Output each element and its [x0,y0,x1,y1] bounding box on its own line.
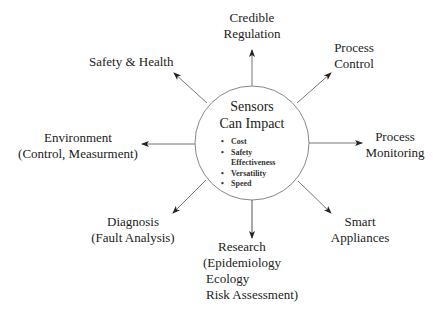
hub-bullet-versatility: •Versatility [221,169,275,180]
hub-title: Sensors Can Impact [192,98,312,132]
node-process-control: Process Control [326,40,382,72]
hub-bullet-speed: •Speed [221,179,275,190]
node-credible-regulation: Credible Regulation [217,10,287,42]
bullet-icon: • [221,179,224,190]
bullet-icon: • [221,137,224,148]
node-environment: Environment (Control, Measurment) [13,130,143,162]
node-smart-appliances: Smart Appliances [327,214,393,246]
hub-bullet-cost: •Cost [221,137,275,148]
hub-bullet-safety: •Safety [221,148,275,159]
bullet-icon: • [221,169,224,180]
node-research: Research (Epidemiology Ecology Risk Asse… [203,239,298,303]
arrow-smart-appliances [298,181,331,213]
hub-title-line2: Can Impact [192,115,312,132]
node-diagnosis: Diagnosis (Fault Analysis) [88,214,178,246]
arrow-diagnosis [173,180,206,213]
node-process-monitoring: Process Monitoring [362,129,428,161]
node-safety-health: Safety & Health [89,54,173,70]
hub-bullet-list: •Cost •Safety Effectiveness •Versatility… [221,137,275,190]
bullet-icon: • [221,148,224,159]
hub-title-line1: Sensors [192,98,312,115]
hub-bullet-safety-cont: Effectiveness [221,158,275,169]
